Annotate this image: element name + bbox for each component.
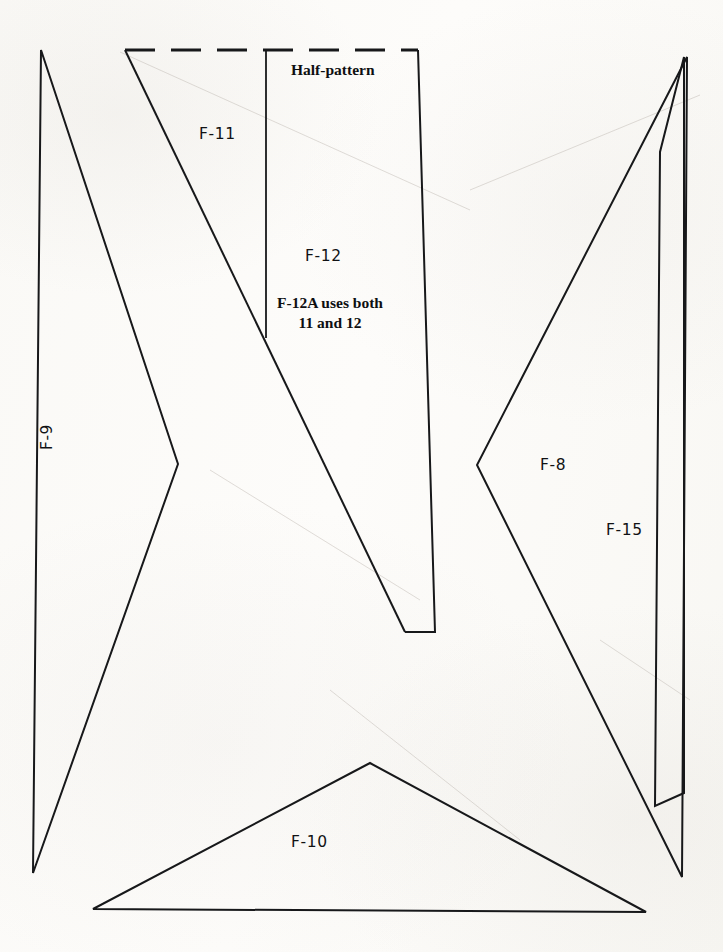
half-pattern-note: Half-pattern xyxy=(291,60,375,80)
combined-pieces-note-line-2: 11 and 12 xyxy=(277,313,383,333)
scan-artifacts xyxy=(120,52,700,840)
combined-pieces-note: F-12A uses both 11 and 12 xyxy=(277,293,383,333)
piece-label-f9: F-9 xyxy=(38,424,56,450)
piece-label-f10: F-10 xyxy=(291,833,328,851)
pattern-sheet: F-9 F-11 F-12 F-8 F-15 F-10 Half-pattern… xyxy=(0,0,723,952)
piece-label-f15: F-15 xyxy=(606,521,643,539)
piece-label-f12: F-12 xyxy=(305,247,342,265)
piece-label-f8: F-8 xyxy=(540,456,566,474)
piece-outline-f10 xyxy=(93,763,646,912)
piece-label-f11: F-11 xyxy=(199,125,236,143)
piece-outline-f11-f12-left-edge xyxy=(125,50,405,632)
combined-pieces-note-line-1: F-12A uses both xyxy=(277,293,383,313)
piece-outline-f11-f12-right-edge xyxy=(405,50,435,632)
piece-outline-f9 xyxy=(33,50,178,873)
pattern-drawing xyxy=(0,0,723,952)
